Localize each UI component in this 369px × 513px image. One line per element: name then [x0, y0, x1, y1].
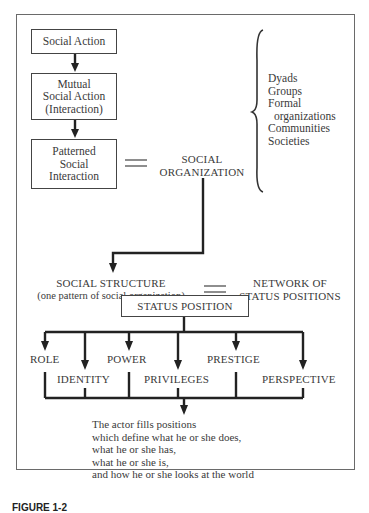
patterned-label-line1: Patterned [32, 145, 116, 158]
social-action-box: Social Action [31, 29, 117, 54]
social-organization-line1: SOCIAL [157, 153, 247, 166]
social-structure-title: SOCIAL STRUCTURE [22, 277, 200, 290]
conclusion-line4: what he or she is, [92, 456, 254, 469]
org-type-organizations: organizations [268, 110, 336, 123]
patterned-social-interaction-box: Patterned Social Interaction [31, 139, 117, 189]
status-position-box: STATUS POSITION [121, 295, 249, 317]
org-type-societies: Societies [268, 135, 336, 148]
conclusion-line1: The actor fills positions [92, 418, 254, 431]
org-type-dyads: Dyads [268, 72, 336, 85]
component-perspective: PERSPECTIVE [262, 373, 336, 386]
org-type-groups: Groups [268, 85, 336, 98]
organization-types-list: Dyads Groups Formal organizations Commun… [268, 72, 336, 148]
conclusion-text: The actor fills positions which define w… [92, 418, 254, 481]
patterned-label-line2: Social [32, 158, 116, 171]
conclusion-line5: and how he or she looks at the world [92, 468, 254, 481]
social-action-label: Social Action [32, 35, 116, 48]
component-privileges: PRIVILEGES [144, 373, 209, 386]
social-organization-line2: ORGANIZATION [157, 166, 247, 179]
component-power: POWER [107, 353, 147, 366]
mutual-label-line2: Social Action [32, 90, 116, 103]
component-identity: IDENTITY [57, 373, 110, 386]
network-line1: NETWORK OF [230, 277, 350, 290]
figure-caption: FIGURE 1-2 [12, 502, 67, 513]
status-position-label: STATUS POSITION [122, 300, 248, 313]
conclusion-line3: what he or she has, [92, 443, 254, 456]
conclusion-line2: which define what he or she does, [92, 431, 254, 444]
mutual-label-line3: (Interaction) [32, 103, 116, 116]
social-organization-label: SOCIAL ORGANIZATION [157, 153, 247, 178]
component-role: ROLE [30, 353, 60, 366]
mutual-label-line1: Mutual [32, 78, 116, 91]
component-prestige: PRESTIGE [207, 353, 260, 366]
org-type-formal: Formal [268, 97, 336, 110]
org-type-communities: Communities [268, 122, 336, 135]
patterned-label-line3: Interaction [32, 170, 116, 183]
mutual-social-action-box: Mutual Social Action (Interaction) [31, 73, 117, 120]
